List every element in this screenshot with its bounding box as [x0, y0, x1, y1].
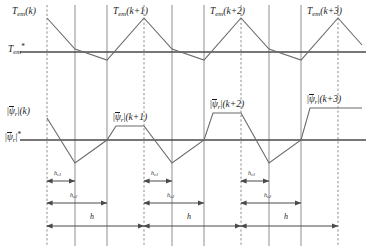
diagram-canvas	[0, 0, 372, 251]
interval-label-hc1-p1: hc1	[54, 170, 61, 177]
torque-label-k2: Tem(k+2)	[210, 7, 245, 17]
dtc-timing-diagram: Tem(k) Tem(k+1) Tem(k+2) Tem(k+3) Tem* |…	[0, 0, 372, 251]
torque-label-k: Tem(k)	[12, 7, 36, 17]
flux-label-k3: |ψr|(k+3)	[307, 95, 341, 105]
sample-gridlines	[47, 5, 338, 246]
flux-label-k1: |ψr|(k+1)	[113, 113, 147, 123]
torque-label-k1: Tem(k+1)	[113, 7, 148, 17]
flux-label-k2: |ψr|(k+2)	[210, 100, 244, 110]
interval-label-hc2-p2: hc2	[167, 192, 174, 199]
interval-label-hc1-p2: hc1	[151, 170, 158, 177]
switching-gridlines	[75, 5, 301, 246]
interval-label-h-p3: h	[284, 213, 288, 221]
interval-label-hc2-p3: hc2	[264, 192, 271, 199]
torque-label-k3: Tem(k+3)	[307, 7, 342, 17]
interval-label-hc1-p3: hc1	[248, 170, 255, 177]
interval-label-h-p2: h	[187, 213, 191, 221]
torque-reference-label: Tem*	[8, 43, 25, 55]
flux-reference-label: |ψr|*	[5, 131, 21, 143]
interval-label-h-p1: h	[90, 213, 94, 221]
flux-label-k: |ψr|(k)	[7, 107, 30, 117]
interval-label-hc2-p1: hc2	[70, 192, 77, 199]
